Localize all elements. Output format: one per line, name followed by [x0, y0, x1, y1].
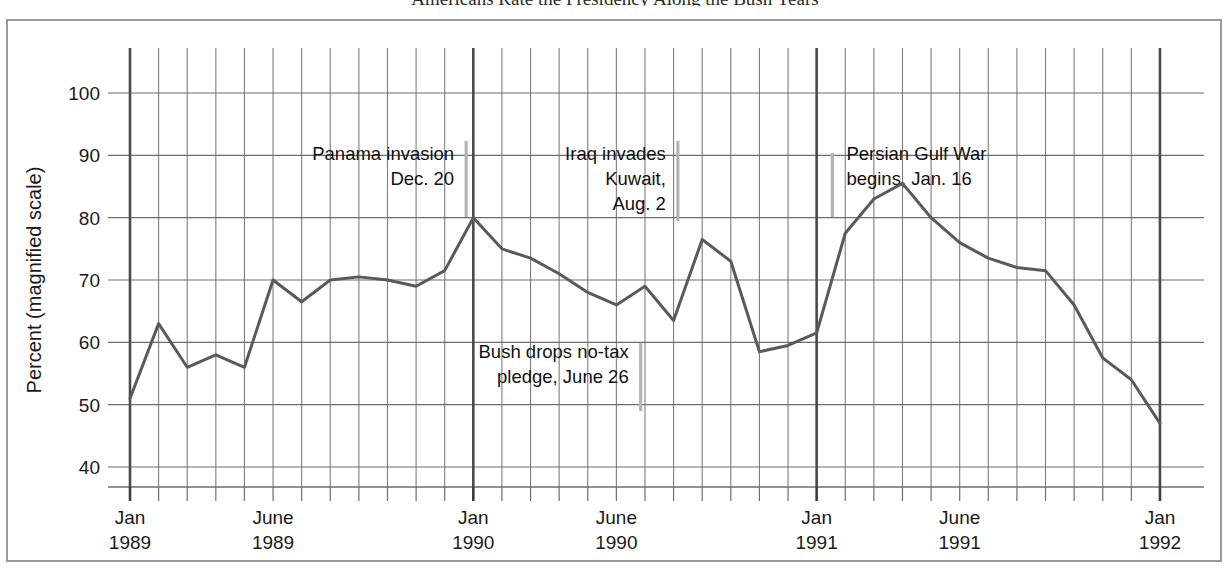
y-axis-tick-labels: 405060708090100: [68, 83, 100, 478]
y-tick-100: 100: [68, 83, 100, 104]
y-tick-50: 50: [79, 395, 100, 416]
y-axis-title: Percent (magnified scale): [23, 167, 45, 394]
x-tick-month-4: Jan: [801, 507, 832, 528]
annotation-panama-invasion-line-2: Dec. 20: [390, 168, 454, 189]
x-tick-year-5: 1991: [939, 532, 981, 553]
y-tick-70: 70: [79, 270, 100, 291]
annotation-bush-no-tax-pledge-line-2: pledge, June 26: [497, 366, 629, 387]
y-tick-40: 40: [79, 457, 100, 478]
annotation-iraq-invades-line-3: Aug. 2: [612, 193, 666, 214]
x-tick-month-2: Jan: [458, 507, 489, 528]
x-tick-year-4: 1991: [795, 532, 837, 553]
x-tick-month-6: Jan: [1145, 507, 1176, 528]
x-tick-month-5: June: [939, 507, 980, 528]
x-axis-tick-marks: [130, 487, 1160, 501]
x-tick-year-3: 1990: [595, 532, 637, 553]
annotation-persian-gulf-war-line-1: Persian Gulf War: [846, 143, 986, 164]
y-tick-90: 90: [79, 145, 100, 166]
annotation-iraq-invades-line-2: Kuwait,: [605, 168, 666, 189]
headline-fragment: Americans Rate the Presidency Along the …: [0, 0, 1230, 6]
x-tick-year-1: 1989: [252, 532, 294, 553]
x-tick-year-2: 1990: [452, 532, 494, 553]
y-tick-60: 60: [79, 332, 100, 353]
annotation-persian-gulf-war-line-2: begins, Jan. 16: [846, 168, 971, 189]
chart-annotations: Panama invasionDec. 20Iraq invadesKuwait…: [312, 143, 986, 387]
x-tick-year-0: 1989: [109, 532, 151, 553]
x-tick-month-1: June: [252, 507, 293, 528]
figure-frame: 405060708090100 Jan1989June1989Jan1990Ju…: [6, 19, 1222, 562]
figure-root: Americans Rate the Presidency Along the …: [0, 0, 1230, 576]
annotation-panama-invasion-line-1: Panama invasion: [312, 143, 454, 164]
annotation-iraq-invades-line-1: Iraq invades: [565, 143, 666, 164]
x-tick-month-3: June: [596, 507, 637, 528]
x-tick-year-6: 1992: [1139, 532, 1181, 553]
y-tick-80: 80: [79, 208, 100, 229]
x-axis-tick-labels: Jan1989June1989Jan1990June1990Jan1991Jun…: [109, 507, 1181, 553]
grid-minor-lines: [159, 48, 1132, 487]
line-chart: 405060708090100 Jan1989June1989Jan1990Ju…: [8, 21, 1220, 560]
annotation-bush-no-tax-pledge-line-1: Bush drops no-tax: [479, 341, 630, 362]
x-tick-month-0: Jan: [115, 507, 146, 528]
